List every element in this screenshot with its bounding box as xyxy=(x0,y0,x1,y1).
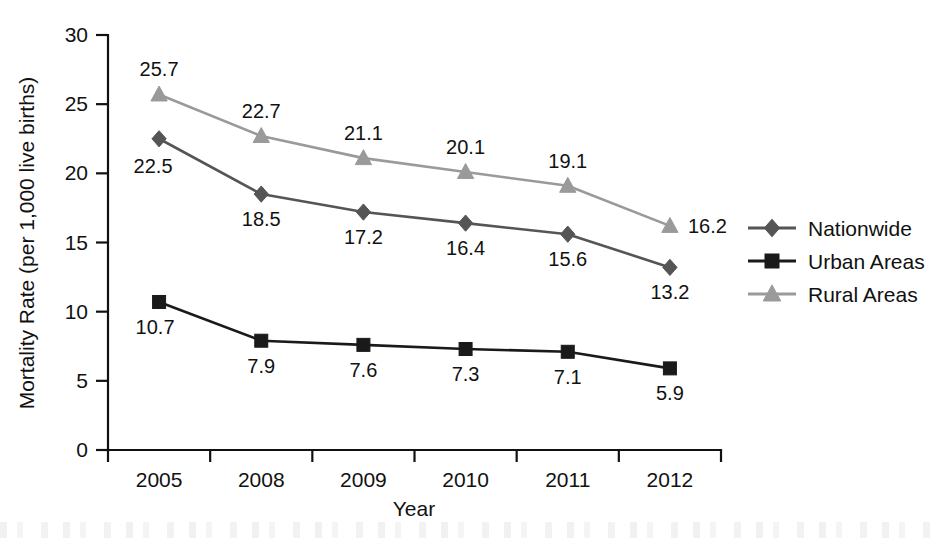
series-line xyxy=(159,302,670,368)
data-point-label: 13.2 xyxy=(650,281,689,303)
data-point-label: 22.7 xyxy=(242,100,281,122)
legend-label: Urban Areas xyxy=(808,250,925,273)
x-axis: 200520082009201020112012 Year xyxy=(108,450,721,520)
y-tick-label: 15 xyxy=(65,231,88,254)
marker-triangle xyxy=(151,86,167,101)
y-tick-label: 25 xyxy=(65,92,88,115)
y-axis-title: Mortality Rate (per 1,000 live births) xyxy=(15,77,38,410)
marker-diamond xyxy=(561,226,575,242)
y-axis: 051015202530 Mortality Rate (per 1,000 l… xyxy=(15,23,108,461)
series-line xyxy=(159,139,670,268)
data-point-label: 18.5 xyxy=(242,208,281,230)
series-rural-areas xyxy=(151,86,678,232)
data-point-label: 7.3 xyxy=(452,363,480,385)
legend-item-urban-areas[interactable]: Urban Areas xyxy=(748,250,925,273)
data-point-label: 15.6 xyxy=(548,248,587,270)
legend-marker xyxy=(765,254,779,268)
series-nationwide xyxy=(152,131,677,276)
y-tick-label: 5 xyxy=(76,369,88,392)
x-tick-label: 2012 xyxy=(647,468,694,491)
x-tick-label: 2005 xyxy=(136,468,183,491)
line-chart-figure: 051015202530 Mortality Rate (per 1,000 l… xyxy=(0,0,940,538)
marker-diamond xyxy=(663,259,677,275)
x-tick-label: 2008 xyxy=(238,468,285,491)
series-urban-areas xyxy=(153,295,677,374)
legend-item-rural-areas[interactable]: Rural Areas xyxy=(748,283,918,306)
data-point-label: 17.2 xyxy=(344,226,383,248)
y-axis-ticks: 051015202530 xyxy=(65,23,108,461)
data-point-label: 5.9 xyxy=(656,382,684,404)
marker-square xyxy=(153,295,166,308)
data-point-label: 25.7 xyxy=(140,58,179,80)
series-line xyxy=(159,94,670,225)
chart-canvas: 051015202530 Mortality Rate (per 1,000 l… xyxy=(0,0,940,538)
legend-item-nationwide[interactable]: Nationwide xyxy=(748,217,912,240)
data-point-label: 16.4 xyxy=(446,237,485,259)
legend-label: Nationwide xyxy=(808,217,912,240)
marker-square xyxy=(561,345,574,358)
series-layer xyxy=(151,86,678,375)
marker-square xyxy=(357,338,370,351)
data-point-label: 7.9 xyxy=(247,355,275,377)
x-axis-title: Year xyxy=(393,497,435,520)
marker-square xyxy=(255,334,268,347)
data-point-label: 10.7 xyxy=(136,316,175,338)
x-tick-label: 2010 xyxy=(442,468,489,491)
data-point-label: 22.5 xyxy=(134,155,173,177)
marker-square xyxy=(459,343,472,356)
marker-diamond xyxy=(254,186,268,202)
y-tick-label: 20 xyxy=(65,161,88,184)
x-tick-label: 2011 xyxy=(545,468,590,491)
data-point-label: 19.1 xyxy=(548,150,587,172)
marker-diamond xyxy=(152,131,166,147)
y-tick-label: 30 xyxy=(65,23,88,46)
data-label-layer: 22.518.517.216.415.613.210.77.97.67.37.1… xyxy=(134,58,727,404)
data-point-label: 7.6 xyxy=(350,359,378,381)
data-point-label: 21.1 xyxy=(344,122,383,144)
legend-marker xyxy=(764,219,779,237)
marker-diamond xyxy=(356,204,370,220)
marker-square xyxy=(663,362,676,375)
marker-diamond xyxy=(458,215,472,231)
x-tick-label: 2009 xyxy=(340,468,387,491)
y-tick-label: 10 xyxy=(65,300,88,323)
data-point-label: 16.2 xyxy=(688,215,727,237)
data-point-label: 20.1 xyxy=(446,136,485,158)
legend-label: Rural Areas xyxy=(808,283,918,306)
chart-legend: NationwideUrban AreasRural Areas xyxy=(748,217,925,306)
y-tick-label: 0 xyxy=(76,438,88,461)
data-point-label: 7.1 xyxy=(554,366,582,388)
x-axis-ticks: 200520082009201020112012 xyxy=(108,450,721,491)
